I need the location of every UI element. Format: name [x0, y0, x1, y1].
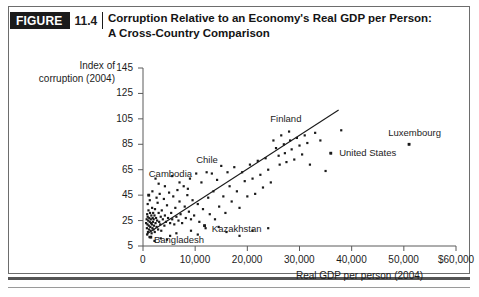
scatter-plot: Index of corruption (2004) Real GDP per … [0, 0, 479, 297]
plot-canvas [0, 0, 479, 297]
plot-axes [138, 68, 456, 251]
figure-container: FIGURE 11.4 Corruption Relative to an Ec… [0, 0, 479, 297]
scatter-points [145, 129, 410, 242]
trend-line [146, 110, 338, 235]
